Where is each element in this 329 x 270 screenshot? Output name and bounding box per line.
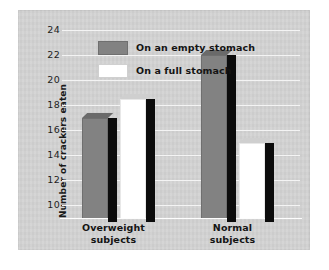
legend-swatch-gray-icon xyxy=(98,41,128,55)
legend-swatch-white-icon xyxy=(98,64,128,78)
y-axis-tick-label: 20 xyxy=(36,75,60,85)
y-axis-tick-label: 22 xyxy=(36,50,60,60)
bar-side-shadow xyxy=(265,143,274,222)
x-axis-category-labels: OverweightsubjectsNormalsubjects xyxy=(62,222,300,256)
y-axis-tick-labels: 2422201816141210 xyxy=(38,30,60,218)
y-axis-tick-label: 16 xyxy=(36,125,60,135)
gridline xyxy=(62,30,300,31)
bar-top-face xyxy=(82,113,113,118)
legend-item-empty-stomach: On an empty stomach xyxy=(98,38,255,57)
bar-top-face xyxy=(239,138,270,143)
bar-face xyxy=(239,143,265,218)
chart-legend: On an empty stomach On a full stomach xyxy=(98,38,255,84)
bar-full-stomach xyxy=(239,143,265,218)
bar-empty-stomach xyxy=(82,118,108,218)
gridline xyxy=(62,105,300,106)
legend-label-full-stomach: On a full stomach xyxy=(136,65,232,76)
bar-face xyxy=(82,118,108,218)
x-axis-category-label: Normalsubjects xyxy=(185,222,281,246)
bar-side-shadow xyxy=(146,99,155,222)
y-axis-tick-label: 12 xyxy=(36,175,60,185)
legend-label-empty-stomach: On an empty stomach xyxy=(136,42,255,53)
y-axis-tick-label: 10 xyxy=(36,200,60,210)
bar-face xyxy=(120,99,146,218)
bar-side-shadow xyxy=(108,118,117,222)
y-axis-tick-label: 24 xyxy=(36,25,60,35)
chart-panel: Number of crackers eaten 242220181614121… xyxy=(18,10,310,250)
x-axis-category-label: Overweightsubjects xyxy=(66,222,162,246)
bar-top-face xyxy=(120,94,151,99)
y-axis-tick-label: 14 xyxy=(36,150,60,160)
legend-item-full-stomach: On a full stomach xyxy=(98,61,255,80)
chart-screenshot: Number of crackers eaten 242220181614121… xyxy=(0,0,329,270)
y-axis-tick-label: 18 xyxy=(36,100,60,110)
bar-full-stomach xyxy=(120,99,146,218)
